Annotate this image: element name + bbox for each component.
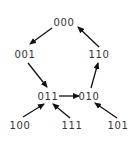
arrow-edge-000-to-001 [30, 28, 52, 44]
node-110: 110 [89, 49, 110, 60]
node-111: 111 [62, 120, 83, 131]
state-transition-diagram: 000001110011010100111101 [0, 0, 136, 146]
node-011: 011 [38, 91, 59, 102]
node-001: 001 [15, 49, 36, 60]
node-010: 010 [79, 91, 100, 102]
arrow-edge-110-to-000 [78, 27, 99, 47]
arrow-edge-010-to-110 [91, 63, 98, 88]
arrow-edge-100-to-011 [23, 104, 44, 117]
arrow-edge-101-to-010 [95, 103, 117, 118]
node-000: 000 [54, 17, 75, 28]
node-101: 101 [108, 120, 129, 131]
node-100: 100 [10, 120, 31, 131]
arrow-edge-111-to-011 [53, 104, 70, 118]
edges-group [23, 27, 117, 118]
arrow-edge-001-to-011 [28, 63, 47, 87]
